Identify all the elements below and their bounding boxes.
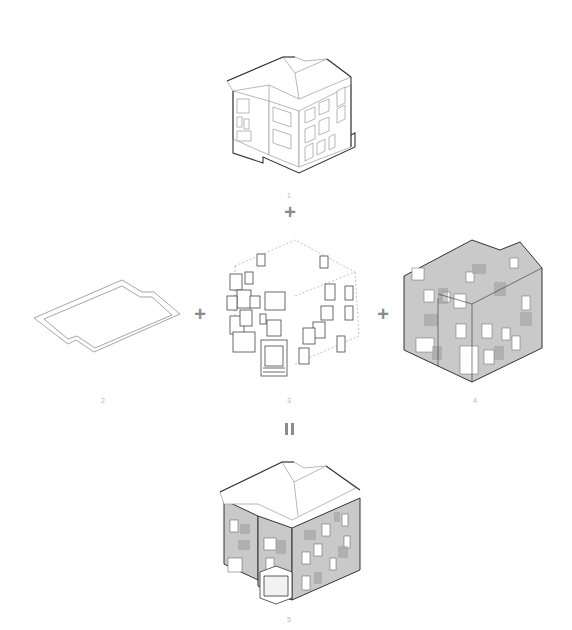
result-house-drawing <box>218 460 368 610</box>
equals-operator <box>285 423 295 435</box>
floor-plate-drawing <box>32 278 192 358</box>
floor-outline-icon <box>32 278 192 358</box>
new-walls-drawing <box>402 238 542 388</box>
inserted-volumes-drawing <box>225 236 365 386</box>
exploded-boxes-icon <box>225 236 365 386</box>
plus-operator-2: + <box>190 304 210 324</box>
plus-operator-3: + <box>373 304 393 324</box>
wall-shell-icon <box>402 238 542 388</box>
house-line-icon <box>225 55 360 185</box>
existing-house-drawing <box>225 55 360 185</box>
label-result-house: 5 <box>279 616 299 623</box>
label-new-walls: 4 <box>465 397 485 404</box>
label-existing-house: 1 <box>279 192 299 199</box>
label-inserted-volumes: 3 <box>279 397 299 404</box>
plus-operator-1: + <box>280 202 300 222</box>
label-floor-plate: 2 <box>93 397 113 404</box>
result-house-icon <box>218 460 368 610</box>
